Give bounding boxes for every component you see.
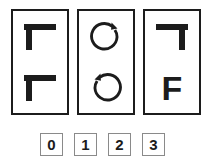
answer-option-0[interactable]: 0 (40, 133, 63, 156)
panel-three: F (143, 9, 201, 115)
vertical-stem (26, 24, 32, 50)
puzzle-diagram: F 0 1 2 3 (0, 0, 210, 165)
answer-option-3-label: 3 (149, 137, 157, 152)
panel-three-cell-top (145, 11, 199, 62)
circular-arrow-clockwise-icon (89, 20, 123, 54)
tt-shape-stem-left-icon (24, 75, 56, 101)
answer-option-row: 0 1 2 3 (40, 133, 165, 156)
vertical-stem (26, 75, 32, 101)
vertical-stem (179, 24, 185, 50)
answer-option-2[interactable]: 2 (108, 133, 131, 156)
answer-option-1[interactable]: 1 (74, 133, 97, 156)
tt-shape-stem-left-icon (24, 24, 56, 50)
panel-one-cell-bottom (13, 62, 67, 113)
panel-two-cell-top (79, 11, 133, 62)
panel-one-cell-top (13, 11, 67, 62)
answer-option-3[interactable]: 3 (142, 133, 165, 156)
panel-two-cell-bottom (79, 62, 133, 113)
tt-shape-stem-right-icon (156, 24, 188, 50)
panel-row: F (11, 9, 201, 115)
circular-arrow-counterclockwise-icon (89, 71, 123, 105)
panel-one (11, 9, 69, 115)
answer-option-1-label: 1 (81, 137, 89, 152)
answer-option-0-label: 0 (47, 137, 55, 152)
letter-f-glyph: F (162, 71, 183, 105)
panel-two (77, 9, 135, 115)
answer-option-2-label: 2 (115, 137, 123, 152)
panel-three-cell-bottom: F (145, 62, 199, 113)
